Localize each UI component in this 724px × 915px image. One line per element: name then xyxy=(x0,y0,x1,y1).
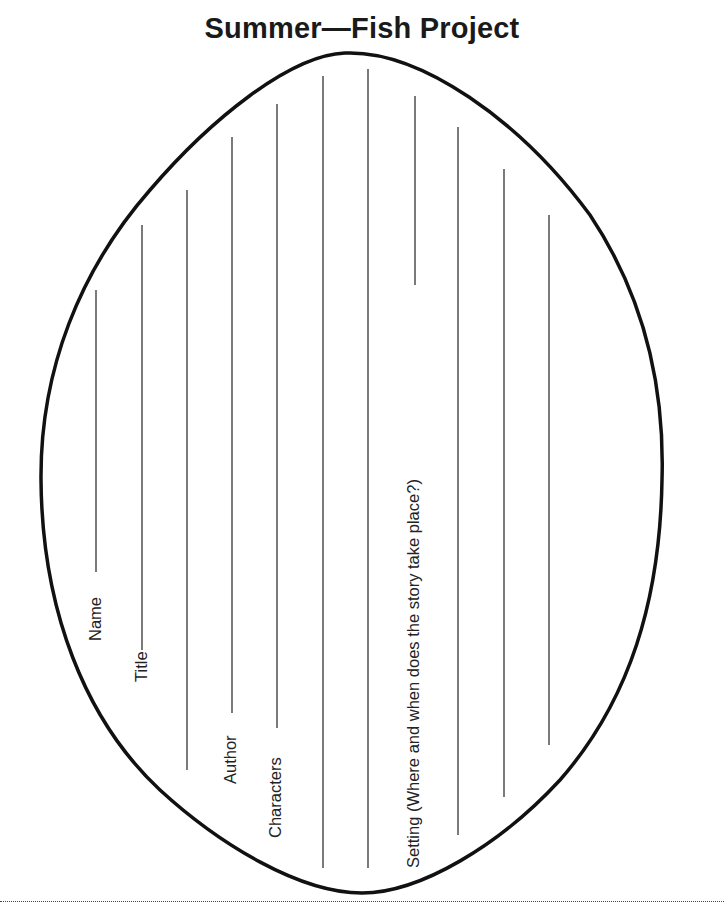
name-label: Name xyxy=(87,597,104,641)
writing-lines xyxy=(96,69,549,868)
fish-outline xyxy=(41,53,662,893)
author-label: Author xyxy=(222,735,239,784)
setting-label: Setting (Where and when does the story t… xyxy=(405,479,422,868)
characters-label: Characters xyxy=(267,757,284,838)
title-label: Title xyxy=(133,651,150,682)
cut-line-divider xyxy=(0,901,724,902)
fish-shape xyxy=(0,0,724,915)
